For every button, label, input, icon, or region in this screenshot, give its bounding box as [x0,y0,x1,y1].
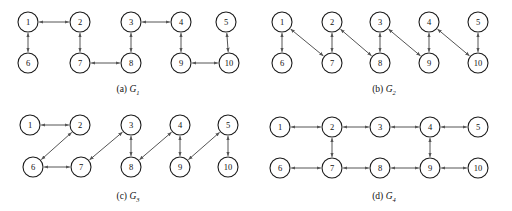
node-label: 2 [330,122,334,132]
node-label: 10 [474,163,483,173]
node-6[interactable]: 6 [18,53,38,73]
node-10[interactable]: 10 [468,158,488,178]
edge-7-3 [90,132,123,160]
node-label: 1 [278,122,282,132]
node-9[interactable]: 9 [419,53,439,73]
edge-1-7 [291,29,324,56]
node-9[interactable]: 9 [420,158,440,178]
node-8[interactable]: 8 [370,158,390,178]
caption-a: (a) G1 [0,84,256,98]
node-4[interactable]: 4 [420,117,440,137]
node-2[interactable]: 2 [70,12,90,32]
nodes-group: 12345678910 [270,117,488,178]
node-label: 10 [224,162,233,172]
node-8[interactable]: 8 [121,53,141,73]
node-label: 9 [178,162,182,172]
node-label: 3 [129,120,133,130]
node-2[interactable]: 2 [322,12,342,32]
graph-subscript: 4 [393,196,396,203]
node-label: 6 [31,162,35,172]
graph-subscript: 1 [136,89,139,96]
node-3[interactable]: 3 [370,12,390,32]
node-9[interactable]: 9 [171,53,191,73]
node-label: 8 [378,58,382,68]
node-label: 7 [78,58,82,68]
node-4[interactable]: 4 [170,115,190,135]
node-10[interactable]: 10 [468,53,488,73]
node-3[interactable]: 3 [121,12,141,32]
node-2[interactable]: 2 [70,115,90,135]
node-6[interactable]: 6 [272,53,292,73]
node-label: 10 [225,58,234,68]
edges-group [282,29,478,56]
node-7[interactable]: 7 [71,157,91,177]
node-1[interactable]: 1 [270,117,290,137]
node-label: 5 [476,122,480,132]
node-label: 1 [280,17,284,27]
node-label: 6 [278,163,282,173]
node-6[interactable]: 6 [270,158,290,178]
node-5[interactable]: 5 [218,115,238,135]
node-7[interactable]: 7 [70,53,90,73]
caption-d: (d) G4 [256,191,512,205]
node-label: 7 [330,58,334,68]
node-label: 8 [129,58,133,68]
node-8[interactable]: 8 [370,53,390,73]
node-label: 5 [476,17,480,27]
graph-name: G [386,191,393,201]
node-label: 3 [378,122,382,132]
node-label: 8 [378,163,382,173]
nodes-group: 12345678910 [18,12,239,73]
edge-4-8 [140,132,172,159]
panel-c: 12345678910 (c) G3 [0,105,256,210]
node-5[interactable]: 5 [468,117,488,137]
caption-prefix: (b) [372,84,383,94]
node-label: 2 [330,17,334,27]
edge-2-6 [41,132,71,159]
node-label: 9 [428,163,432,173]
figure-container: 12345678910 (a) G1 12345678910 (b) G2 12… [0,0,512,211]
node-label: 3 [129,17,133,27]
node-4[interactable]: 4 [419,12,439,32]
node-label: 2 [78,17,82,27]
node-label: 2 [78,120,82,130]
node-7[interactable]: 7 [322,158,342,178]
node-3[interactable]: 3 [370,117,390,137]
caption-prefix: (c) [116,191,127,201]
node-10[interactable]: 10 [219,53,239,73]
node-label: 7 [79,162,83,172]
node-label: 9 [427,58,431,68]
node-label: 3 [378,17,382,27]
node-label: 6 [280,58,284,68]
node-6[interactable]: 6 [23,157,43,177]
node-5[interactable]: 5 [468,12,488,32]
caption-b: (b) G2 [256,84,512,98]
node-label: 1 [28,120,32,130]
node-1[interactable]: 1 [18,12,38,32]
node-7[interactable]: 7 [322,53,342,73]
edge-5-10 [227,33,228,52]
node-3[interactable]: 3 [121,115,141,135]
node-9[interactable]: 9 [170,157,190,177]
node-label: 5 [224,17,228,27]
caption-prefix: (a) [116,84,127,94]
graph-subscript: 2 [393,89,396,96]
caption-prefix: (d) [372,191,383,201]
node-label: 5 [226,120,230,130]
edge-4-10 [438,29,470,56]
node-5[interactable]: 5 [216,12,236,32]
nodes-group: 12345678910 [20,115,238,177]
node-10[interactable]: 10 [218,157,238,177]
node-label: 8 [129,162,133,172]
node-4[interactable]: 4 [171,12,191,32]
node-label: 9 [179,58,183,68]
node-1[interactable]: 1 [20,115,40,135]
edge-2-8 [341,29,372,55]
node-label: 10 [474,58,483,68]
graph-subscript: 3 [136,196,139,203]
edge-9-5 [188,132,219,159]
node-2[interactable]: 2 [322,117,342,137]
node-1[interactable]: 1 [272,12,292,32]
edge-3-9 [389,29,421,56]
node-8[interactable]: 8 [121,157,141,177]
